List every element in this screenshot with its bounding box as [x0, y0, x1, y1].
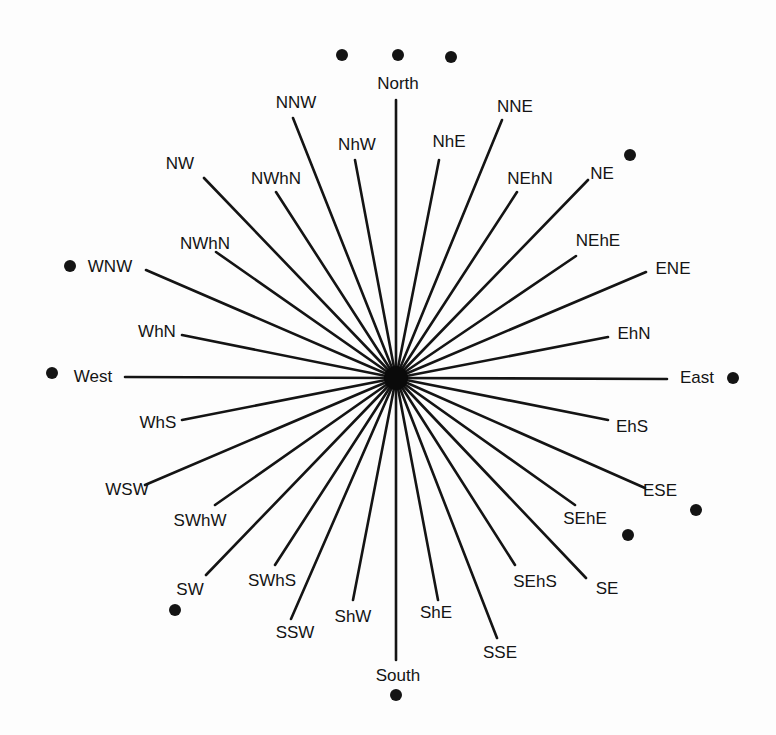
- sw-dot: [169, 604, 181, 616]
- label-nwhn: NWhN: [180, 234, 230, 253]
- spoke-sw: [206, 378, 396, 575]
- label-wnw: WNW: [88, 257, 132, 276]
- label-nnw: NNW: [276, 93, 317, 112]
- label-west: West: [74, 367, 113, 386]
- label-nwhn: NWhN: [251, 169, 301, 188]
- north-dot-left: [336, 49, 348, 61]
- label-ssw: SSW: [276, 623, 315, 642]
- wnw-dot: [64, 260, 76, 272]
- label-ene: ENE: [656, 259, 691, 278]
- sehe-dot: [622, 529, 634, 541]
- label-wsw: WSW: [105, 480, 148, 499]
- south-dot: [390, 689, 402, 701]
- spoke-wsw: [145, 378, 396, 485]
- spoke-east: [396, 378, 667, 379]
- label-sehs: SEhS: [513, 572, 556, 591]
- label-east: East: [680, 368, 714, 387]
- label-sehe: SEhE: [563, 509, 606, 528]
- label-se: SE: [596, 579, 619, 598]
- label-ne: NE: [590, 164, 614, 183]
- label-she: ShE: [420, 603, 452, 622]
- label-whs: WhS: [140, 413, 177, 432]
- label-nhe: NhE: [432, 132, 465, 151]
- label-nne: NNE: [497, 97, 533, 116]
- spoke-west: [125, 377, 396, 378]
- label-shw: ShW: [335, 607, 372, 626]
- label-nw: NW: [166, 154, 194, 173]
- spoke-se: [396, 378, 586, 578]
- label-ehn: EhN: [617, 324, 650, 343]
- label-ese: ESE: [643, 481, 677, 500]
- label-swhs: SWhS: [248, 571, 296, 590]
- label-sse: SSE: [483, 643, 517, 662]
- spoke-ne: [396, 180, 588, 378]
- label-sw: SW: [176, 580, 203, 599]
- label-nehe: NEhE: [576, 231, 620, 250]
- spoke-nw: [204, 178, 396, 378]
- label-nhw: NhW: [338, 135, 376, 154]
- compass-center-hub: [384, 366, 408, 390]
- label-swhw: SWhW: [174, 511, 227, 530]
- label-south: South: [376, 666, 420, 685]
- label-whn: WhN: [138, 322, 176, 341]
- north-dot-center: [392, 49, 404, 61]
- ese-dot: [690, 504, 702, 516]
- compass-rose-diagram: NorthNhENNENEhNNENEhEENEEhNEastEhSESESEh…: [0, 0, 776, 735]
- label-nehn: NEhN: [507, 169, 552, 188]
- north-dot-right: [445, 51, 457, 63]
- label-north: North: [377, 74, 419, 93]
- east-dot: [727, 372, 739, 384]
- label-ehs: EhS: [616, 417, 648, 436]
- west-dot: [46, 367, 58, 379]
- ne-dot: [624, 149, 636, 161]
